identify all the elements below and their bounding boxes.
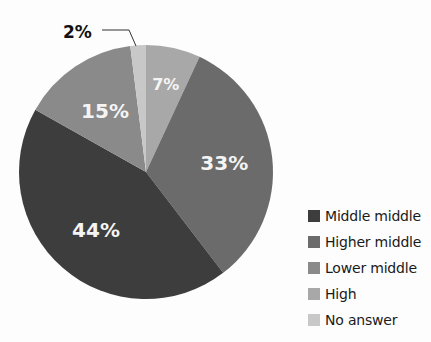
legend-label: Middle middle (325, 208, 421, 224)
legend-item-no-answer: No answer (308, 307, 421, 333)
legend-label: No answer (325, 312, 397, 328)
slice-label-middle-middle: 44% (72, 218, 120, 242)
callout-line (102, 30, 136, 46)
legend-label: High (325, 286, 356, 302)
slice-label-lower-middle: 15% (81, 99, 129, 123)
legend: Middle middle Higher middle Lower middle… (308, 203, 421, 333)
legend-swatch (308, 288, 320, 300)
legend-label: Higher middle (325, 234, 421, 250)
legend-item-higher-middle: Higher middle (308, 229, 421, 255)
slice-label-higher-middle: 33% (200, 151, 248, 175)
legend-swatch (308, 262, 320, 274)
legend-swatch (308, 236, 320, 248)
legend-item-middle-middle: Middle middle (308, 203, 421, 229)
callout-label-no-answer: 2% (63, 22, 92, 42)
slice-label-high: 7% (152, 75, 179, 94)
legend-item-high: High (308, 281, 421, 307)
legend-item-lower-middle: Lower middle (308, 255, 421, 281)
legend-swatch (308, 314, 320, 326)
legend-swatch (308, 210, 320, 222)
legend-label: Lower middle (325, 260, 417, 276)
